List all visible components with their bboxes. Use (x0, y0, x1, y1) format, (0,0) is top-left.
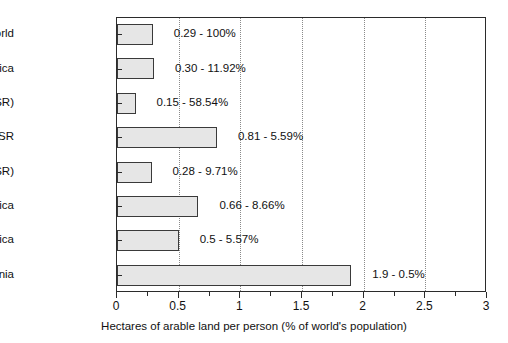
x-axis-tick (486, 292, 487, 298)
x-axis-tick (178, 292, 179, 298)
data-label: 0.81 - 5.59% (238, 131, 303, 143)
x-axis-minor-tick (209, 292, 210, 296)
plot-area (116, 17, 486, 292)
y-axis-label: Asia(-USSR) (0, 97, 14, 109)
x-axis-tick-label: 2 (359, 300, 366, 312)
data-label: 0.29 - 100% (174, 28, 236, 40)
x-axis-tick (363, 292, 364, 298)
data-label: 0.15 - 58.54% (157, 97, 229, 109)
bar-row (117, 224, 487, 258)
bar-chart: WorldAfricaAsia(-USSR)USSREurope(-USSR)N… (0, 0, 508, 343)
x-axis-minor-tick (455, 292, 456, 296)
x-axis-tick-label: 0 (113, 300, 120, 312)
x-axis-minor-tick (394, 292, 395, 296)
bar (117, 24, 153, 45)
bar-row (117, 259, 487, 293)
x-axis-tick-label: 3 (483, 300, 490, 312)
x-axis-tick-label: 1 (236, 300, 243, 312)
y-axis-tick (116, 240, 122, 241)
bar (117, 196, 198, 217)
y-axis-label: Europe(-USSR) (0, 166, 14, 178)
x-axis-minor-tick (332, 292, 333, 296)
x-axis-minor-tick (147, 292, 148, 296)
data-label: 1.9 - 0.5% (372, 269, 424, 281)
y-axis-label: Oceania (0, 269, 14, 281)
data-label: 0.66 - 8.66% (219, 200, 284, 212)
data-label: 0.5 - 5.57% (200, 234, 259, 246)
y-axis-label: Africa (0, 63, 14, 75)
y-axis-label: World (0, 28, 14, 40)
y-axis-tick (116, 69, 122, 70)
data-label: 0.30 - 11.92% (175, 63, 246, 75)
y-axis-tick (116, 172, 122, 173)
bar (117, 127, 217, 148)
y-axis-label: USSR (0, 131, 14, 143)
data-label: 0.28 - 9.71% (173, 166, 238, 178)
x-axis-tick-label: 1.5 (293, 300, 310, 312)
x-axis-tick-label: 0.5 (169, 300, 186, 312)
bar-row (117, 190, 487, 224)
y-axis-tick (116, 103, 122, 104)
bar (117, 230, 179, 251)
bar (117, 58, 154, 79)
bar (117, 162, 152, 183)
x-axis-tick (424, 292, 425, 298)
x-axis-tick (301, 292, 302, 298)
y-axis-tick (116, 275, 122, 276)
y-axis-label: N and C America (0, 200, 14, 212)
bar-row (117, 52, 487, 86)
y-axis-tick (116, 34, 122, 35)
x-axis-tick (116, 292, 117, 298)
x-axis-minor-tick (270, 292, 271, 296)
y-axis-label: S. America (0, 234, 14, 246)
y-axis-tick (116, 137, 122, 138)
x-axis-tick-label: 2.5 (416, 300, 433, 312)
bar (117, 265, 351, 286)
x-axis-tick (239, 292, 240, 298)
y-axis-tick (116, 206, 122, 207)
x-axis-title: Hectares of arable land per person (% of… (0, 321, 508, 333)
bar-row (117, 18, 487, 52)
